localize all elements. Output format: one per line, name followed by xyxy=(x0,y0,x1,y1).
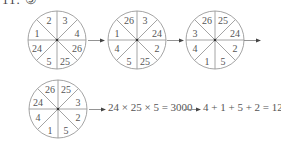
sector-label: 26 xyxy=(124,15,134,26)
sector-label: 4 xyxy=(115,43,120,54)
sector-label: 25 xyxy=(218,15,228,26)
sector-label: 1 xyxy=(48,125,53,136)
sector-label: 4 xyxy=(75,28,80,39)
problem-number: 11. ⑤ xyxy=(2,0,38,8)
sector-label: 3 xyxy=(143,15,148,26)
wheel-step-3: 26 25 24 2 5 1 4 3 xyxy=(185,10,245,70)
sector-label: 24 xyxy=(33,97,43,108)
sector-label: 4 xyxy=(193,43,198,54)
sector-label: 26 xyxy=(202,15,212,26)
product-equation: 24 × 25 × 5 = 3000 xyxy=(108,101,193,113)
sector-label: 5 xyxy=(127,56,132,67)
sector-label: 1 xyxy=(35,28,40,39)
arrow-icon xyxy=(89,109,107,111)
sector-label: 26 xyxy=(72,43,82,54)
arrow-icon xyxy=(244,40,262,42)
sector-label: 3 xyxy=(193,28,198,39)
sector-label: 5 xyxy=(47,56,52,67)
sector-label: 2 xyxy=(47,15,52,26)
arrow-icon xyxy=(88,40,106,42)
sector-label: 26 xyxy=(45,84,55,95)
sector-label: 25 xyxy=(60,56,70,67)
sector-label: 1 xyxy=(115,28,120,39)
sector-label: 4 xyxy=(36,112,41,123)
arrow-icon xyxy=(167,40,185,42)
sector-label: 24 xyxy=(152,28,162,39)
wheel-step-4: 26 25 3 2 5 1 4 24 xyxy=(28,79,88,139)
sector-label: 25 xyxy=(140,56,150,67)
sector-label: 25 xyxy=(61,84,71,95)
sector-label: 3 xyxy=(76,97,81,108)
digit-sum-equation: 4 + 1 + 5 + 2 = 12 xyxy=(203,101,281,113)
sector-label: 3 xyxy=(63,15,68,26)
sector-label: 1 xyxy=(205,56,210,67)
sector-label: 24 xyxy=(230,28,240,39)
sector-label: 5 xyxy=(221,56,226,67)
arrow-icon xyxy=(184,109,202,111)
wheel-step-1: 2 3 4 26 25 5 24 1 xyxy=(27,10,87,70)
wheel-step-2: 26 3 24 2 25 5 4 1 xyxy=(107,10,167,70)
sector-label: 2 xyxy=(233,43,238,54)
sector-label: 2 xyxy=(155,43,160,54)
sector-label: 24 xyxy=(32,43,42,54)
sector-label: 5 xyxy=(64,125,69,136)
sector-label: 2 xyxy=(76,112,81,123)
